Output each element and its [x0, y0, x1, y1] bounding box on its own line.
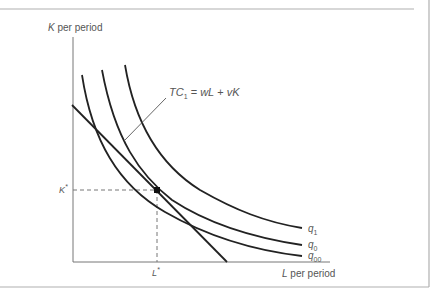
cost-line-label: TC1 = wL + vK: [169, 86, 240, 100]
isocost-line: [72, 105, 227, 262]
isoquant-label-q1: q1: [308, 223, 318, 236]
tangency-point: [154, 187, 160, 193]
isoquant-q00: [82, 75, 302, 256]
k-star-label: K*: [59, 183, 68, 195]
l-star-label: L*: [152, 266, 160, 278]
isoquant-cost-minimization-diagram: K per period L per period K* L* TC1 = wL…: [0, 0, 443, 299]
y-axis-label: K per period: [48, 22, 102, 33]
x-axis-label: L per period: [282, 268, 335, 279]
cost-line-leader: [124, 98, 166, 141]
